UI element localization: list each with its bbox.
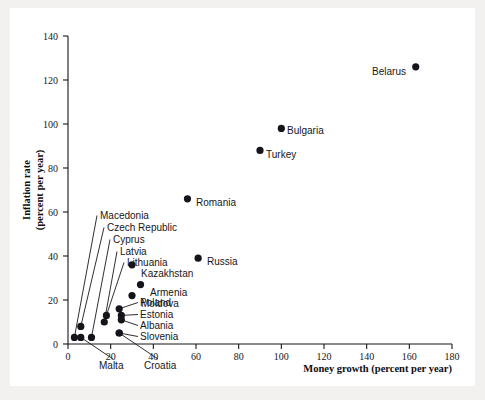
point-label-cyprus: Cyprus	[113, 234, 145, 245]
x-tick-label: 60	[191, 351, 201, 362]
y-tick-label: 0	[53, 339, 58, 350]
point-label-kazakhstan: Kazakhstan	[141, 268, 193, 279]
point-label-croatia: Croatia	[144, 360, 177, 371]
inline-point-labels: BelarusBulgariaTurkeyRomaniaRussiaKazakh…	[141, 66, 406, 309]
x-tick-label: 120	[317, 351, 332, 362]
y-tick-label: 20	[48, 295, 58, 306]
y-tick-label: 80	[48, 163, 58, 174]
data-point-armenia	[137, 281, 144, 288]
point-label-albania: Albania	[140, 320, 174, 331]
x-tick-label: 80	[234, 351, 244, 362]
data-point-latvia	[101, 318, 108, 325]
data-point-czech-republic	[77, 323, 84, 330]
data-point-malta	[77, 334, 84, 341]
y-tick-label: 120	[43, 75, 58, 86]
x-tick-label: 160	[402, 351, 417, 362]
x-tick-label: 100	[274, 351, 289, 362]
point-label-turkey: Turkey	[266, 149, 296, 160]
point-label-russia: Russia	[207, 256, 238, 267]
point-label-czech-republic: Czech Republic	[107, 222, 177, 233]
data-point-croatia	[116, 329, 123, 336]
data-point-cyprus	[88, 334, 95, 341]
y-axis-ticks: 020406080100120140	[43, 31, 68, 350]
y-tick-label: 40	[48, 251, 58, 262]
data-point-albania	[118, 316, 125, 323]
point-label-romania: Romania	[196, 197, 236, 208]
point-label-poland: Poland	[140, 297, 171, 308]
y-tick-label: 140	[43, 31, 58, 42]
point-label-macedonia: Macedonia	[100, 210, 149, 221]
point-label-latvia: Latvia	[120, 246, 147, 257]
data-point-macedonia	[71, 334, 78, 341]
point-label-bulgaria: Bulgaria	[287, 125, 324, 136]
y-tick-label: 60	[48, 207, 58, 218]
x-tick-label: 140	[359, 351, 374, 362]
y-axis-title-line1: Inflation rate	[21, 160, 32, 220]
y-axis-title-line2: (percent per year)	[34, 149, 46, 230]
data-point-lithuania	[103, 312, 110, 319]
point-label-belarus: Belarus	[372, 66, 406, 77]
y-tick-label: 100	[43, 119, 58, 130]
data-point-bulgaria	[278, 125, 285, 132]
y-axis-title: Inflation rate (percent per year)	[21, 149, 46, 230]
x-tick-label: 180	[445, 351, 460, 362]
x-axis-title: Money growth (percent per year)	[303, 363, 452, 375]
point-label-malta: Malta	[99, 360, 124, 371]
data-point-poland	[116, 305, 123, 312]
point-label-slovenia: Slovenia	[140, 331, 179, 342]
x-axis-ticks: 020406080100120140160180	[66, 344, 460, 362]
point-label-lithuania: Lithuania	[127, 257, 168, 268]
data-point-romania	[184, 195, 191, 202]
leader-line-macedonia	[74, 216, 97, 338]
scatter-chart: 020406080100120140 020406080100120140160…	[0, 0, 485, 400]
data-point-russia	[195, 255, 202, 262]
data-point-turkey	[256, 147, 263, 154]
data-points	[71, 63, 420, 341]
x-tick-label: 0	[66, 351, 71, 362]
leader-line-malta	[81, 337, 113, 359]
data-point-belarus	[412, 63, 419, 70]
data-point-moldova	[128, 292, 135, 299]
point-label-estonia: Estonia	[140, 309, 174, 320]
chart-page: 020406080100120140 020406080100120140160…	[0, 0, 485, 400]
